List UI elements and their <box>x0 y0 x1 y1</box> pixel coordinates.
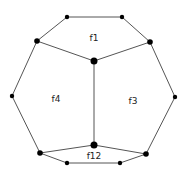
vertex-n4 <box>147 39 153 45</box>
edge-n4-n7 <box>150 42 175 97</box>
edge-n1-n3 <box>37 17 67 41</box>
vertex-n1 <box>65 15 69 19</box>
edge-n10-n12 <box>120 154 146 163</box>
vertex-n8 <box>91 142 98 149</box>
vertex-n11 <box>65 161 69 165</box>
vertex-n9 <box>37 150 43 156</box>
graph-diagram: f1 f4 f3 f12 <box>0 0 190 176</box>
edge-n2-n4 <box>122 17 150 42</box>
vertex-n10 <box>143 151 149 157</box>
face-label-f3: f3 <box>129 96 138 106</box>
edge-n4-n5 <box>94 42 150 61</box>
graph-svg: f1 f4 f3 f12 <box>0 0 190 176</box>
vertex-n2 <box>120 15 124 19</box>
face-label-f1: f1 <box>90 33 99 43</box>
vertex-n5 <box>91 58 98 65</box>
edge-n6-n9 <box>12 96 40 153</box>
vertex-n12 <box>118 161 122 165</box>
edge-n3-n5 <box>37 41 94 61</box>
face-label-f12: f12 <box>87 151 102 161</box>
edge-n3-n6 <box>12 41 37 96</box>
vertex-n7 <box>173 95 177 99</box>
vertex-n6 <box>10 94 14 98</box>
vertex-n3 <box>34 38 40 44</box>
face-label-f4: f4 <box>52 94 61 104</box>
edge-n9-n11 <box>40 153 67 163</box>
edge-n7-n10 <box>146 97 175 154</box>
edge-n8-n10 <box>94 145 146 154</box>
